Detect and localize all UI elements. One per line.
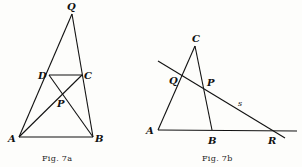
- segment-DB: [49, 75, 93, 137]
- figure-7a: Q D C P A B Fig. 7a: [7, 1, 103, 163]
- geometry-figures: Q D C P A B Fig. 7a C Q P A B R s Fig. 7…: [0, 0, 302, 167]
- point-label-C: C: [192, 33, 200, 44]
- figure-7b: C Q P A B R s Fig. 7b: [145, 33, 297, 163]
- point-label-Q: Q: [169, 75, 178, 86]
- point-label-R: R: [267, 135, 276, 146]
- point-label-P: P: [56, 98, 65, 109]
- point-label-P: P: [206, 77, 215, 88]
- point-label-D: D: [37, 70, 47, 81]
- point-label-B: B: [207, 135, 216, 146]
- segment-AC: [19, 75, 82, 137]
- line-AR-extended: [158, 130, 297, 131]
- point-label-B: B: [94, 133, 103, 144]
- line-label-s: s: [238, 99, 242, 108]
- point-label-Q: Q: [67, 1, 76, 12]
- point-label-A: A: [7, 133, 16, 144]
- caption-fig-7a: Fig. 7a: [42, 154, 72, 163]
- point-label-A: A: [145, 125, 154, 136]
- line-s: [158, 61, 285, 138]
- point-label-C: C: [84, 70, 92, 81]
- caption-fig-7b: Fig. 7b: [202, 154, 233, 163]
- segment-AC: [158, 46, 195, 130]
